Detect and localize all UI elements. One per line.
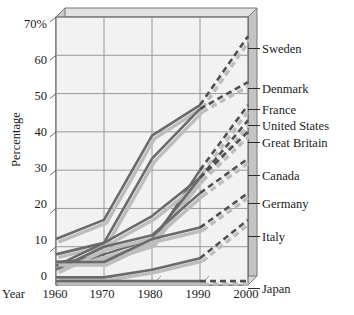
series-leader-line <box>248 48 260 49</box>
series-label-great-britain: Great Britain <box>262 137 328 150</box>
series-label-sweden: Sweden <box>262 43 302 56</box>
y-tick: 10 <box>35 234 48 246</box>
y-tick: 50 <box>35 90 48 102</box>
series-leader-line <box>248 175 260 176</box>
series-leader-line <box>248 109 260 110</box>
series-leader-line <box>248 288 260 289</box>
x-tick: 1960 <box>33 288 77 301</box>
series-label-denmark: Denmark <box>262 83 309 96</box>
y-tick: 70% <box>24 18 47 30</box>
series-leader-line <box>248 125 260 126</box>
series-label-germany: Germany <box>262 198 309 211</box>
x-tick: 1970 <box>80 288 124 301</box>
series-leader-line <box>248 88 260 89</box>
y-tick: 20 <box>35 198 48 210</box>
series-label-united-states: United States <box>262 120 329 133</box>
series-label-france: France <box>262 104 296 117</box>
x-tick: 1990 <box>176 288 220 301</box>
series-leader-line <box>248 236 260 237</box>
y-tick: 30 <box>35 162 48 174</box>
series-leader-line <box>248 203 260 204</box>
x-tick: 1980 <box>128 288 172 301</box>
series-leader-line <box>248 142 260 143</box>
series-label-japan: Japan <box>262 283 290 296</box>
y-axis-title: Percentage <box>9 85 24 195</box>
y-axis-ticks: 70% 60 50 40 30 20 10 0 <box>0 0 47 315</box>
series-label-italy: Italy <box>262 231 285 244</box>
y-tick: 40 <box>35 126 48 138</box>
line-chart: 70% 60 50 40 30 20 10 0 Percentage Year … <box>0 0 354 315</box>
x-axis-title: Year <box>2 288 25 301</box>
y-tick: 60 <box>35 54 48 66</box>
y-tick: 0 <box>41 270 47 282</box>
series-label-canada: Canada <box>262 170 299 183</box>
